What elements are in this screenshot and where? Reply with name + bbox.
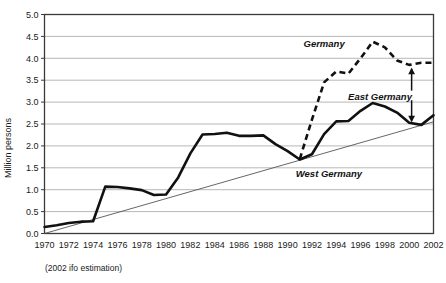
y-axis-title: Million persons	[3, 117, 13, 178]
x-tick-label: 1996	[351, 240, 371, 250]
footnote-text: (2002 ifo estimation)	[45, 263, 122, 273]
unemployment-line-chart: 0.00.51.01.52.02.53.03.54.04.55.0 197019…	[0, 0, 446, 283]
x-tick-label: 1970	[34, 240, 54, 250]
x-tick-label: 1974	[83, 240, 103, 250]
x-tick-label: 1988	[253, 240, 273, 250]
y-tick-label: 4.5	[26, 32, 39, 42]
x-tick-label: 1994	[326, 240, 346, 250]
x-tick-label: 1990	[278, 240, 298, 250]
y-tick-label: 1.5	[26, 163, 39, 173]
x-tick-label: 1982	[180, 240, 200, 250]
y-tick-label: 0.5	[26, 207, 39, 217]
y-tick-label: 2.5	[26, 119, 39, 129]
x-tick-label: 1980	[156, 240, 176, 250]
y-tick-label: 5.0	[26, 10, 39, 20]
y-tick-label: 4.0	[26, 54, 39, 64]
y-tick-label: 0.0	[26, 229, 39, 239]
chart-container: 0.00.51.01.52.02.53.03.54.04.55.0 197019…	[0, 0, 446, 283]
x-tick-label: 1998	[375, 240, 395, 250]
x-tick-label: 2002	[423, 240, 443, 250]
x-tick-label: 1992	[302, 240, 322, 250]
x-tick-label: 2000	[399, 240, 419, 250]
west-germany-label: West Germany	[296, 168, 363, 179]
x-tick-label: 1978	[132, 240, 152, 250]
y-tick-label: 3.0	[26, 97, 39, 107]
east-germany-label: East Germany	[348, 91, 413, 102]
y-tick-label: 2.0	[26, 141, 39, 151]
y-tick-label: 3.5	[26, 75, 39, 85]
germany-label: Germany	[304, 38, 346, 49]
x-tick-label: 1976	[107, 240, 127, 250]
x-tick-label: 1984	[205, 240, 225, 250]
y-tick-label: 1.0	[26, 185, 39, 195]
x-tick-label: 1986	[229, 240, 249, 250]
x-axis-tick-labels: 1970197219741976197819801982198419861988…	[34, 240, 443, 250]
x-tick-label: 1972	[59, 240, 79, 250]
